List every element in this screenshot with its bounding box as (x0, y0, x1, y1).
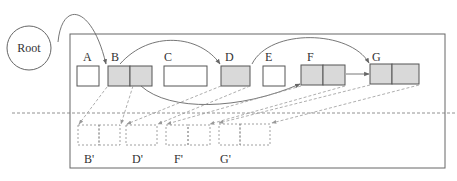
copy-f (166, 125, 210, 145)
edge-b-to-f (141, 84, 300, 105)
node-label-c: C (164, 50, 172, 64)
node-label-b: B (111, 50, 119, 64)
copy-label-g: G' (220, 152, 231, 166)
copy-edge-d (127, 86, 221, 124)
node-label-g: G (372, 50, 381, 64)
copy-g (219, 124, 270, 145)
copy-d (126, 125, 157, 145)
node-e (263, 66, 285, 86)
gc-copy-diagram: Root A B C D E F G B' D' (0, 0, 457, 181)
node-f (301, 65, 345, 85)
node-d (221, 66, 250, 86)
edge-root-to-b (58, 14, 106, 64)
node-label-f: F (307, 50, 314, 64)
copy-edge-b-a (79, 87, 107, 124)
copy-label-b: B' (84, 152, 94, 166)
copy-label-f: F' (174, 152, 183, 166)
node-a (77, 66, 99, 86)
node-c (164, 66, 207, 86)
copy-edge-g2 (272, 85, 419, 123)
copy-edge-g (219, 85, 370, 123)
node-label-a: A (83, 50, 92, 64)
copy-edge-b-b (121, 86, 133, 124)
root-label: Root (17, 41, 41, 55)
copy-edge-f2 (210, 86, 345, 124)
copy-label-d: D' (132, 152, 143, 166)
copy-edge-f (167, 86, 301, 124)
node-g (370, 64, 419, 84)
node-label-e: E (265, 50, 272, 64)
copy-b (78, 125, 120, 145)
node-b (108, 66, 152, 86)
heap-region (70, 34, 445, 168)
node-label-d: D (225, 50, 234, 64)
root-node: Root (7, 26, 51, 70)
